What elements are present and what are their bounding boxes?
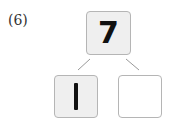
part-left-value-one xyxy=(74,83,78,110)
part-left-box xyxy=(54,75,98,118)
total-value: 7 xyxy=(98,18,119,48)
total-box: 7 xyxy=(86,11,131,55)
part-right-answer-box[interactable] xyxy=(118,75,162,118)
